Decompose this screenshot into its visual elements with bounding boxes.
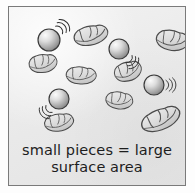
solid-chunk: [72, 23, 109, 49]
solid-chunk: [105, 90, 134, 110]
caption: small pieces = large surface area: [9, 142, 185, 176]
reactant-sphere: [49, 89, 69, 109]
reactant-sphere: [109, 39, 129, 59]
solid-chunk: [43, 112, 74, 133]
solid-chunk: [66, 66, 97, 85]
reactant-sphere: [38, 29, 60, 51]
diagram-panel: small pieces = large surface area: [8, 6, 186, 186]
solid-chunk: [138, 102, 183, 136]
caption-line-2: surface area: [9, 159, 185, 176]
reactant-sphere: [144, 75, 164, 95]
particle-4: [144, 75, 176, 95]
particle-1: [38, 17, 72, 51]
caption-line-1: small pieces = large: [9, 142, 185, 159]
solid-chunk: [28, 53, 58, 74]
solid-chunk: [155, 28, 186, 53]
motion-lines-icon: [166, 78, 176, 92]
figure-root: small pieces = large surface area: [0, 0, 195, 193]
